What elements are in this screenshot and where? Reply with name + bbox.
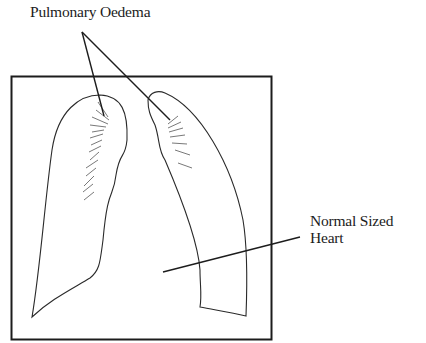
heart-pointer-line bbox=[163, 237, 300, 272]
label-heart-line1: Normal Sized bbox=[310, 212, 393, 229]
oedema-hatching-right bbox=[83, 102, 109, 200]
oedema-hatching-left bbox=[168, 116, 192, 168]
lung-right bbox=[32, 95, 127, 317]
label-pulmonary-oedema: Pulmonary Oedema bbox=[30, 3, 150, 20]
xray-frame bbox=[12, 77, 272, 340]
label-heart-line2: Heart bbox=[310, 229, 393, 246]
lung-left bbox=[148, 92, 247, 316]
lung-diagram bbox=[0, 0, 426, 343]
label-normal-sized-heart: Normal Sized Heart bbox=[310, 212, 393, 246]
